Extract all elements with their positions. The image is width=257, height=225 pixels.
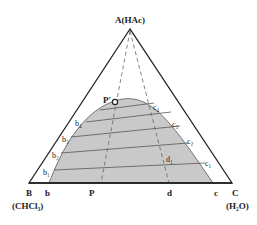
vertex-A-label: A(HAc) <box>115 15 145 25</box>
point-b4-label: b₄ <box>75 119 82 128</box>
point-b-label: b <box>45 188 50 198</box>
point-b1-label: b₁ <box>43 168 50 177</box>
vertex-B-label: B <box>26 188 32 198</box>
point-c2-label: c₂ <box>187 137 194 146</box>
point-c4-label: c₄ <box>153 103 160 112</box>
plait-point-marker <box>112 99 117 104</box>
plait-point-label: P′ <box>103 95 111 105</box>
ternary-diagram: A(HAc) B (CHCl₃) C (H₂O) b P d c P′ b₁ b… <box>0 0 257 225</box>
point-d-label: d <box>167 188 172 198</box>
vertex-C-sublabel: (H₂O) <box>226 201 249 211</box>
vertex-C-label: C <box>232 188 239 198</box>
point-d1-label: d₁ <box>166 155 173 164</box>
point-b2-label: b₂ <box>52 151 59 160</box>
point-b3-label: b₃ <box>62 135 69 144</box>
vertex-B-sublabel: (CHCl₃) <box>12 201 43 211</box>
point-P-label: P <box>89 188 95 198</box>
point-c1-label: c₁ <box>205 159 212 168</box>
point-c3-label: c₃ <box>172 120 179 129</box>
point-c-label: c <box>214 188 218 198</box>
